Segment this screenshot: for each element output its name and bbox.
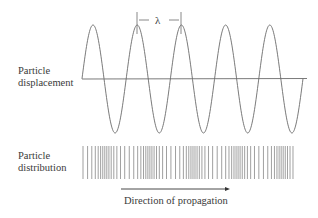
distribution-label-line1: Particle [18,150,66,162]
displacement-label-line2: displacement [18,77,73,89]
particle-distribution-label: Particle distribution [18,150,66,174]
wavelength-label: λ [155,14,160,26]
displacement-label-line1: Particle [18,65,73,77]
displacement-axis [82,79,307,80]
propagation-arrow [121,187,230,191]
distribution-label-line2: distribution [18,162,66,174]
direction-of-propagation-label: Direction of propagation [124,195,228,207]
particle-displacement-label: Particle displacement [18,65,73,89]
wave-diagram [0,0,318,218]
particle-distribution-lines [83,146,293,179]
